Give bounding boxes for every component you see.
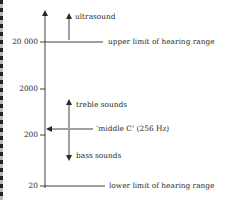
lower-limit-label: lower limit of hearing range	[109, 182, 214, 189]
tick-label-2000: 2000	[4, 85, 38, 92]
tick-label-20: 20	[4, 182, 38, 189]
ultrasound-label: ultrasound	[75, 13, 116, 20]
middle-c-label: ‘middle C’ (256 Hz)	[96, 125, 169, 132]
treble-label: treble sounds	[76, 101, 127, 108]
bass-label: bass sounds	[76, 152, 121, 159]
tick-label-200: 200	[4, 131, 38, 138]
upper-limit-label: upper limit of hearing range	[108, 38, 215, 45]
tick-label-20000: 20 000	[4, 38, 38, 45]
